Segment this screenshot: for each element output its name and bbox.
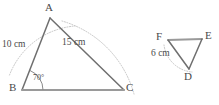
side-ed-line [189,39,202,69]
vertex-label-f: F [156,31,162,42]
angle-b-label: 70° [33,74,44,82]
geometry-canvas [0,0,219,105]
vertex-label-d: D [184,71,192,82]
geometry-figure: A B C 10 cm 15 cm 70° F E D 6 cm [0,0,219,105]
vertex-label-c: C [126,82,133,93]
side-ab-measure-label: 10 cm [2,40,25,50]
vertex-label-e: E [205,30,212,41]
side-ac-measure-label: 15 cm [62,38,85,48]
triangle-def-outline [168,39,202,69]
construction-arcs-abc [10,21,135,94]
side-ac-line [50,18,124,90]
vertex-label-b: B [9,82,16,93]
side-fe-line [168,39,202,40]
side-fd-measure-label: 6 cm [151,49,170,59]
vertex-label-a: A [45,2,53,13]
side-fd-line [168,40,189,69]
arc-from-a-radius-15-icon [62,21,134,94]
